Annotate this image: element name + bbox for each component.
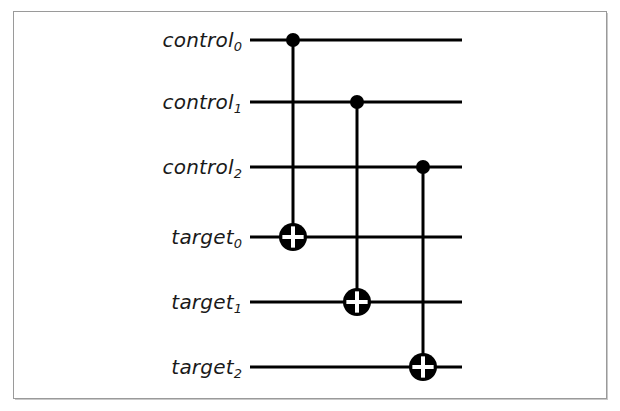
wire-label-subscript: 0 [234, 39, 242, 54]
wire-label-text: control [163, 28, 234, 52]
wire-label-target0: target0 [171, 225, 242, 249]
target-gate-cnot-1 [343, 288, 371, 316]
gate-connector-layer [293, 40, 423, 367]
quantum-circuit [0, 0, 620, 411]
control-dot-cnot-0 [286, 33, 300, 47]
wire-label-subscript: 0 [234, 236, 242, 251]
control-dot-cnot-1 [350, 95, 364, 109]
target-gate-cnot-0 [279, 223, 307, 251]
target-gate-cnot-2 [409, 353, 437, 381]
wire-label-subscript: 1 [234, 301, 242, 316]
wire-label-text: target [171, 225, 233, 249]
wire-label-target2: target2 [171, 355, 242, 379]
wire-label-text: target [171, 290, 233, 314]
wire-label-subscript: 1 [234, 101, 242, 116]
wire-label-control1: control1 [163, 90, 242, 114]
wire-label-text: target [171, 355, 233, 379]
wire-label-subscript: 2 [234, 366, 242, 381]
wire-label-text: control [163, 155, 234, 179]
wire-label-text: control [163, 90, 234, 114]
wire-label-control2: control2 [163, 155, 242, 179]
wire-label-target1: target1 [171, 290, 242, 314]
wire-label-subscript: 2 [234, 166, 242, 181]
wire-label-control0: control0 [163, 28, 242, 52]
diagram-page: control0control1control2target0target1ta… [0, 0, 620, 411]
control-dot-cnot-2 [416, 160, 430, 174]
